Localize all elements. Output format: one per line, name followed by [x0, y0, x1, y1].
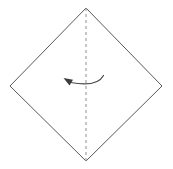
diagram-canvas: Origami fold step: valley fold square in… — [0, 0, 173, 169]
origami-fold-diagram: Origami fold step: valley fold square in… — [0, 0, 173, 169]
